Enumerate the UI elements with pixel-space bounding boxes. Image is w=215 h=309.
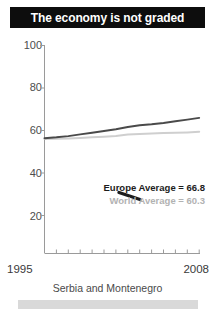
page-title: The economy is not graded	[31, 12, 185, 24]
y-axis-ticks	[40, 46, 45, 216]
x-tick-1995: 1995	[7, 264, 33, 276]
chart-caption: Serbia and Montenegro	[0, 283, 215, 294]
chart-annotations: Europe Average = 66.8 World Average = 60…	[104, 182, 205, 207]
chart-figure: The economy is not graded 100 80 60 40 2…	[0, 0, 215, 309]
x-axis-ticks	[56, 250, 199, 254]
x-tick-2008: 2008	[183, 264, 209, 276]
bottom-band	[18, 300, 198, 309]
annotation-europe-average: Europe Average = 66.8	[104, 182, 205, 195]
plot-area	[0, 34, 215, 266]
annotation-world-average: World Average = 60.3	[104, 195, 205, 208]
chart-title-banner: The economy is not graded	[10, 7, 205, 28]
chart-svg	[0, 34, 215, 266]
